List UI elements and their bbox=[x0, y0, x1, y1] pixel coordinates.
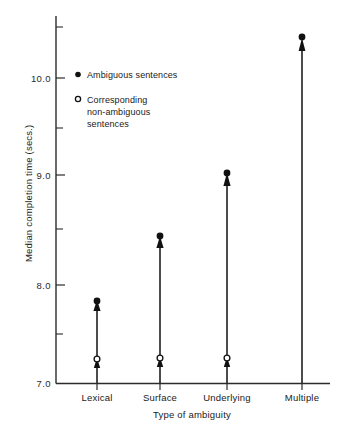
point-ambiguous-underlying bbox=[224, 170, 231, 177]
legend-entry-nonambiguous: Corresponding non-ambiguous sentences bbox=[75, 95, 150, 129]
point-ambiguous-multiple bbox=[299, 34, 306, 41]
point-nonambiguous-lexical bbox=[94, 356, 100, 362]
y-tick-label-10: 10.0 bbox=[31, 73, 51, 84]
legend-label-nonambiguous-line2: non-ambiguous bbox=[87, 107, 151, 117]
point-ambiguous-surface bbox=[157, 233, 164, 240]
x-label-underlying: Underlying bbox=[203, 392, 250, 403]
data-group-lexical bbox=[93, 298, 100, 383]
x-axis-title: Type of ambiguity bbox=[153, 409, 231, 420]
data-group-surface bbox=[156, 233, 163, 383]
x-label-lexical: Lexical bbox=[82, 392, 113, 403]
y-axis-major-ticks bbox=[56, 78, 65, 285]
x-axis-ticks bbox=[97, 384, 302, 391]
median-completion-time-chart: 10.0 9.0 8.0 7.0 Median completion time … bbox=[0, 0, 343, 430]
y-tick-label-9: 9.0 bbox=[37, 170, 51, 181]
legend-marker-filled-circle-icon bbox=[75, 72, 81, 78]
y-tick-label-8: 8.0 bbox=[37, 280, 51, 291]
y-tick-label-7: 7.0 bbox=[37, 378, 51, 389]
legend-label-nonambiguous-line3: sentences bbox=[87, 119, 129, 129]
x-axis-category-labels: Lexical Surface Underlying Multiple bbox=[82, 392, 320, 403]
legend: Ambiguous sentences Corresponding non-am… bbox=[75, 70, 178, 129]
chart-figure: 10.0 9.0 8.0 7.0 Median completion time … bbox=[0, 0, 343, 430]
data-group-underlying bbox=[223, 170, 230, 383]
point-nonambiguous-surface bbox=[157, 355, 163, 361]
point-ambiguous-lexical bbox=[94, 298, 101, 305]
y-axis-title: Median completion time (secs.) bbox=[23, 125, 34, 262]
x-label-multiple: Multiple bbox=[285, 392, 319, 403]
point-nonambiguous-underlying bbox=[224, 355, 230, 361]
legend-label-ambiguous: Ambiguous sentences bbox=[87, 70, 178, 80]
legend-label-nonambiguous-line1: Corresponding bbox=[87, 95, 147, 105]
data-group-multiple bbox=[299, 34, 306, 383]
legend-marker-open-circle-icon bbox=[75, 96, 80, 101]
legend-entry-ambiguous: Ambiguous sentences bbox=[75, 70, 178, 80]
y-axis-minor-ticks bbox=[56, 27, 63, 334]
x-label-surface: Surface bbox=[143, 392, 177, 403]
